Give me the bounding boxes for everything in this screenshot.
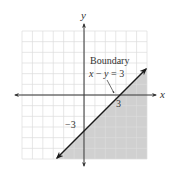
- annotation-pointer-arrow: [107, 80, 114, 93]
- x-axis-label: x: [159, 88, 165, 100]
- y-intercept-label: −3: [65, 119, 76, 130]
- boundary-title: Boundary: [90, 55, 129, 66]
- eq-rest: = 3: [109, 68, 125, 79]
- y-axis-label: y: [80, 9, 86, 21]
- boundary-equation: x − y = 3: [88, 68, 124, 79]
- eq-minus: −: [93, 68, 104, 79]
- x-intercept-label: 3: [116, 98, 121, 109]
- inequality-graph: y x Boundary x − y = 3 3 −3: [0, 0, 171, 176]
